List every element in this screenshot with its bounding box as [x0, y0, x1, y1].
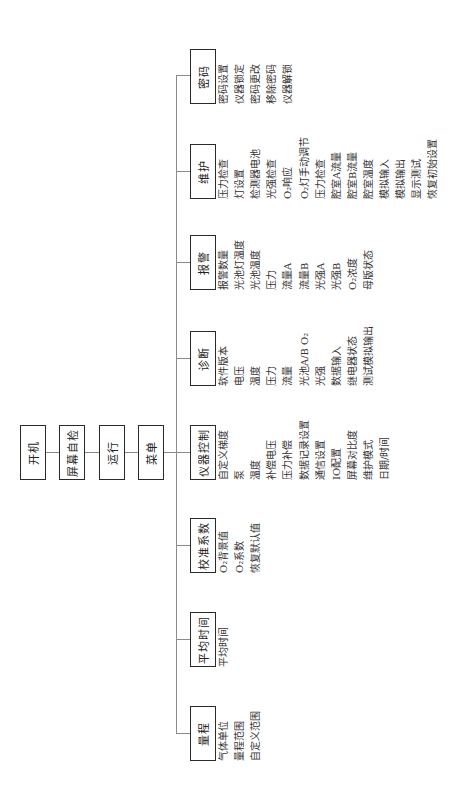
category-password: 密码 [190, 49, 216, 104]
menu-item: 温度 [250, 460, 262, 480]
menu-item: 密码设置 [218, 64, 230, 104]
menu-item: 平均时间 [218, 627, 230, 667]
spine-line [176, 75, 177, 734]
menu-item: 光强 [315, 366, 327, 386]
menu-item: 流量 [282, 366, 294, 386]
menu-item: 流量B [299, 263, 311, 290]
menu-item: 光池A/B O₂ [299, 333, 311, 386]
menu-item: 模拟输出 [395, 159, 407, 199]
menu-item: 腔室温度 [363, 159, 375, 199]
connector [176, 358, 190, 359]
menu-item: 屏幕对比度 [347, 430, 359, 480]
menu-item: 通信设置 [315, 440, 327, 480]
connector [176, 171, 190, 172]
menu-item: 压力检查 [218, 159, 230, 199]
connector [176, 639, 190, 640]
menu-item: 电压 [234, 366, 246, 386]
menu-item: 数据输入 [331, 346, 343, 386]
menu-item: 光强检查 [266, 159, 278, 199]
menu-item: 光池灯温度 [234, 240, 246, 290]
menu-item: 压力检查 [315, 159, 327, 199]
box-label: 仪器控制 [195, 429, 211, 477]
connector [176, 262, 190, 263]
category-average-time: 平均时间 [190, 612, 216, 667]
category-diagnostics: 诊断 [190, 331, 216, 386]
menu-item: 母版状态 [363, 250, 375, 290]
menu-item: 移除密码 [266, 64, 278, 104]
connector [176, 75, 190, 76]
connector [46, 452, 59, 453]
menu-item: 腔室B流量 [347, 152, 359, 199]
category-calibration: 校准系数 [190, 518, 216, 573]
menu-item: 仪器锁定 [234, 64, 246, 104]
menu-item: 压力补偿 [282, 440, 294, 480]
menu-item: 显示测试 [411, 159, 423, 199]
menu-item: 腔室A流量 [331, 152, 343, 199]
category-range: 量程 [190, 706, 216, 761]
box-label: 密码 [195, 65, 211, 89]
box-label: 菜单 [143, 441, 159, 465]
menu-item: 光池温度 [250, 250, 262, 290]
menu-item: 自定义梯度 [218, 430, 230, 480]
menu-item: 报警数量 [218, 250, 230, 290]
chain-box-run: 运行 [99, 425, 125, 480]
menu-item: 光强B [331, 263, 343, 290]
category-maintenance: 维护 [190, 144, 216, 199]
menu-item: 压力 [266, 366, 278, 386]
menu-item: 软件版本 [218, 346, 230, 386]
menu-item: 量程范围 [234, 721, 246, 761]
box-label: 平均时间 [195, 616, 211, 664]
connector [85, 452, 99, 453]
chain-box-power-on: 开机 [20, 425, 46, 480]
category-instrument-control: 仪器控制 [190, 425, 216, 480]
menu-item: 补偿电压 [266, 440, 278, 480]
menu-item: 自定义范围 [250, 711, 262, 761]
menu-item: 维护模式 [363, 440, 375, 480]
menu-item: 泵 [234, 470, 246, 480]
menu-item: 日期/时间 [379, 437, 391, 480]
menu-item: 流量A [282, 263, 294, 290]
connector [176, 733, 190, 734]
menu-structure-diagram: 开机 屏幕自检 运行 菜单 量程 平均时间 校准系数 仪器控制 诊断 报警 维护… [0, 0, 453, 786]
box-label: 运行 [104, 441, 120, 465]
box-label: 诊断 [195, 347, 211, 371]
menu-item: 模拟输入 [379, 159, 391, 199]
menu-item: 数据记录设置 [299, 420, 311, 480]
menu-item: 光强A [315, 263, 327, 290]
box-label: 量程 [195, 722, 211, 746]
menu-item: 仪器解锁 [282, 64, 294, 104]
menu-item: 密码更改 [250, 64, 262, 104]
chain-box-screen-selftest: 屏幕自检 [59, 425, 85, 480]
menu-item: 继电器状态 [347, 336, 359, 386]
box-label: 屏幕自检 [64, 429, 80, 477]
menu-item: O₂系数 [234, 541, 246, 573]
menu-item: 恢复初始设置 [427, 139, 439, 199]
box-label: 维护 [195, 160, 211, 184]
menu-item: 气体单位 [218, 721, 230, 761]
menu-item: 灯设置 [234, 169, 246, 199]
menu-item: O₂响应 [282, 167, 294, 199]
menu-item: 压力 [266, 270, 278, 290]
menu-item: 温度 [250, 366, 262, 386]
connector [125, 452, 138, 453]
connector [176, 545, 190, 546]
box-label: 校准系数 [195, 522, 211, 570]
menu-item: O₂灯手动调节 [299, 137, 311, 199]
menu-item: 测试模拟输出 [363, 326, 375, 386]
menu-item: O₂浓度 [347, 258, 359, 290]
menu-item: O₂背景值 [218, 531, 230, 573]
menu-item: 检测器电池 [250, 149, 262, 199]
box-label: 报警 [195, 251, 211, 275]
menu-item: 恢复默认值 [250, 523, 262, 573]
box-label: 开机 [25, 441, 41, 465]
category-alarm: 报警 [190, 235, 216, 290]
connector [164, 452, 190, 453]
chain-box-menu: 菜单 [138, 425, 164, 480]
menu-item: IO配置 [331, 448, 343, 480]
